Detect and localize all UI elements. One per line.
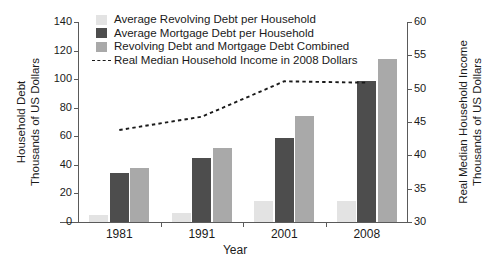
y-axis-right-title-line2: Thousands of US Dollars xyxy=(471,58,483,186)
y-axis-right-title: Real Median Household Income Thousands o… xyxy=(456,37,484,207)
x-axis-tick-label-2001: 2001 xyxy=(254,229,314,240)
bar-mortgage-2001 xyxy=(275,138,294,222)
x-axis-tick-label-1991: 1991 xyxy=(172,229,232,240)
y-axis-right-tick-label: 50 xyxy=(414,83,444,94)
y-axis-right-tick xyxy=(408,89,412,90)
bar-mortgage-1991 xyxy=(192,158,211,222)
bar-combined-2001 xyxy=(295,116,314,222)
bar-mortgage-2008 xyxy=(357,81,376,222)
y-axis-right-tick xyxy=(408,189,412,190)
y-axis-right-tick-label: 55 xyxy=(414,49,444,60)
y-axis-right-tick-label: 60 xyxy=(414,16,444,27)
y-axis-left-tick-label: 0 xyxy=(42,216,72,227)
y-axis-right-tick-label: 35 xyxy=(414,183,444,194)
y-axis-right-tick-label: 40 xyxy=(414,149,444,160)
x-axis-tick xyxy=(326,223,327,227)
y-axis-right-tick-label: 30 xyxy=(414,216,444,227)
x-axis-title: Year xyxy=(175,243,295,257)
y-axis-left-tick-label: 80 xyxy=(42,102,72,113)
plot-area-bars xyxy=(78,22,408,222)
bar-revolving-2001 xyxy=(254,201,273,222)
y-axis-right-tick xyxy=(408,55,412,56)
y-axis-left-title-line1: Household Debt xyxy=(15,81,27,163)
y-axis-right-tick xyxy=(408,222,412,223)
bar-combined-1981 xyxy=(130,168,149,222)
y-axis-left-tick-label: 100 xyxy=(42,73,72,84)
x-axis-tick xyxy=(243,223,244,227)
y-axis-left-tick-label: 40 xyxy=(42,159,72,170)
x-axis-tick xyxy=(161,223,162,227)
y-axis-left-title: Household Debt Thousands of US Dollars xyxy=(14,37,42,207)
x-axis-tick-label-1981: 1981 xyxy=(89,229,149,240)
bar-mortgage-1981 xyxy=(110,173,129,222)
y-axis-left-tick xyxy=(74,222,78,223)
y-axis-right-title-line1: Real Median Household Income xyxy=(457,40,469,204)
y-axis-left-tick-label: 20 xyxy=(42,187,72,198)
bar-combined-1991 xyxy=(213,148,232,222)
y-axis-left-title-line2: Thousands of US Dollars xyxy=(29,58,41,186)
bar-combined-2008 xyxy=(378,59,397,222)
bar-revolving-1991 xyxy=(172,213,191,222)
y-axis-left-tick-label: 140 xyxy=(42,16,72,27)
x-axis-tick-label-2008: 2008 xyxy=(337,229,397,240)
y-axis-left-tick-label: 120 xyxy=(42,45,72,56)
bar-revolving-2008 xyxy=(337,201,356,222)
x-axis-line xyxy=(60,222,408,223)
y-axis-left-tick-label: 60 xyxy=(42,130,72,141)
y-axis-right-tick-label: 45 xyxy=(414,116,444,127)
y-axis-right-tick xyxy=(408,22,412,23)
y-axis-right-tick xyxy=(408,155,412,156)
bar-revolving-1981 xyxy=(89,215,108,222)
y-axis-right-tick xyxy=(408,122,412,123)
